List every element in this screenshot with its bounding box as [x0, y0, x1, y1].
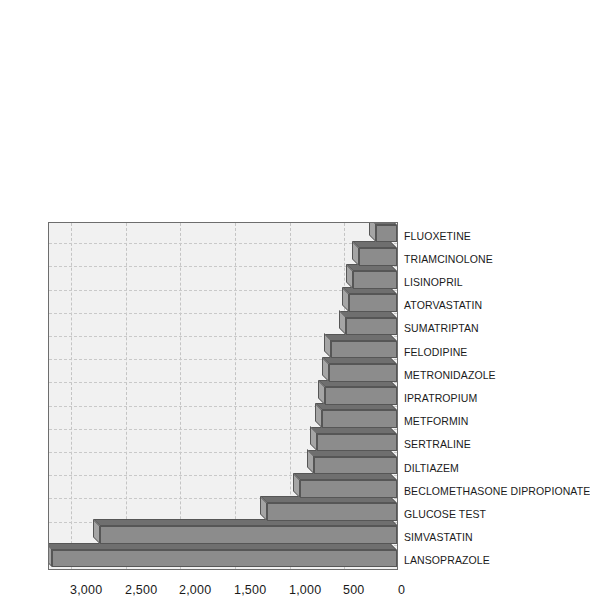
plot-inner [49, 223, 397, 569]
y-axis-tick-label: 0 [398, 583, 405, 597]
y-axis-tick-label: 1,500 [234, 583, 266, 597]
x-axis-category-label: DILTIAZEM [404, 462, 459, 474]
bar [318, 380, 397, 405]
x-axis-category-label: FLUOXETINE [404, 230, 471, 242]
bar-front-face [329, 364, 397, 382]
bar-front-face [317, 434, 397, 452]
bar [352, 241, 397, 266]
bar-top-face [369, 223, 376, 242]
x-axis-category-label: METRONIDAZOLE [404, 369, 496, 381]
bar [342, 287, 397, 312]
x-axis-category-label: FELODIPINE [404, 346, 467, 358]
bar [324, 334, 397, 359]
y-axis-tick-label: 2,500 [125, 583, 157, 597]
x-axis-category-label: METFORMIN [404, 415, 468, 427]
gridline-horizontal [71, 223, 72, 569]
bar-front-face [325, 387, 397, 405]
y-axis-tick-label: 2,000 [179, 583, 211, 597]
x-axis-category-label: IPRATROPIUM [404, 392, 477, 404]
bar-front-face [349, 294, 397, 312]
bar-front-face [52, 550, 397, 568]
bar [322, 357, 397, 382]
bar-front-face [300, 480, 397, 498]
x-axis-category-label: TRIAMCINOLONE [404, 253, 493, 265]
bar-front-face [267, 503, 397, 521]
y-axis-tick-label: 1,000 [289, 583, 321, 597]
bar [293, 473, 397, 498]
gridline-horizontal [126, 223, 127, 569]
y-axis-tick-label: 500 [343, 583, 364, 597]
bar [310, 427, 397, 452]
bar-front-face [331, 341, 397, 359]
x-axis-category-label: SUMATRIPTAN [404, 322, 479, 334]
bar-front-face [322, 410, 397, 428]
x-axis-category-label: BECLOMETHASONE DIPROPIONATE [404, 485, 590, 497]
plot-area [48, 222, 398, 570]
bar [307, 450, 397, 475]
x-axis-category-label: ATORVASTATIN [404, 299, 482, 311]
bar-front-face [353, 271, 397, 289]
y-axis-tick-label: 3,000 [70, 583, 102, 597]
gridline-vertical [49, 243, 397, 244]
bar [260, 496, 397, 521]
gridline-horizontal [180, 223, 181, 569]
bar-front-face [376, 225, 397, 243]
bar [49, 543, 397, 568]
bar-front-face [346, 318, 397, 336]
x-axis-category-label: SIMVASTATIN [404, 531, 473, 543]
gridline-vertical [49, 266, 397, 267]
x-axis-category-label: LISINOPRIL [404, 276, 463, 288]
gridline-horizontal [235, 223, 236, 569]
bar [315, 403, 397, 428]
bar [93, 519, 398, 544]
bar [346, 264, 397, 289]
x-axis-category-label: LANSOPRAZOLE [404, 554, 490, 566]
bar [339, 311, 397, 336]
bar-front-face [100, 526, 398, 544]
x-axis-category-label: SERTRALINE [404, 438, 471, 450]
x-axis-category-label: GLUCOSE TEST [404, 508, 486, 520]
bar [369, 223, 397, 242]
bar-front-face [314, 457, 397, 475]
bar-front-face [359, 248, 397, 266]
